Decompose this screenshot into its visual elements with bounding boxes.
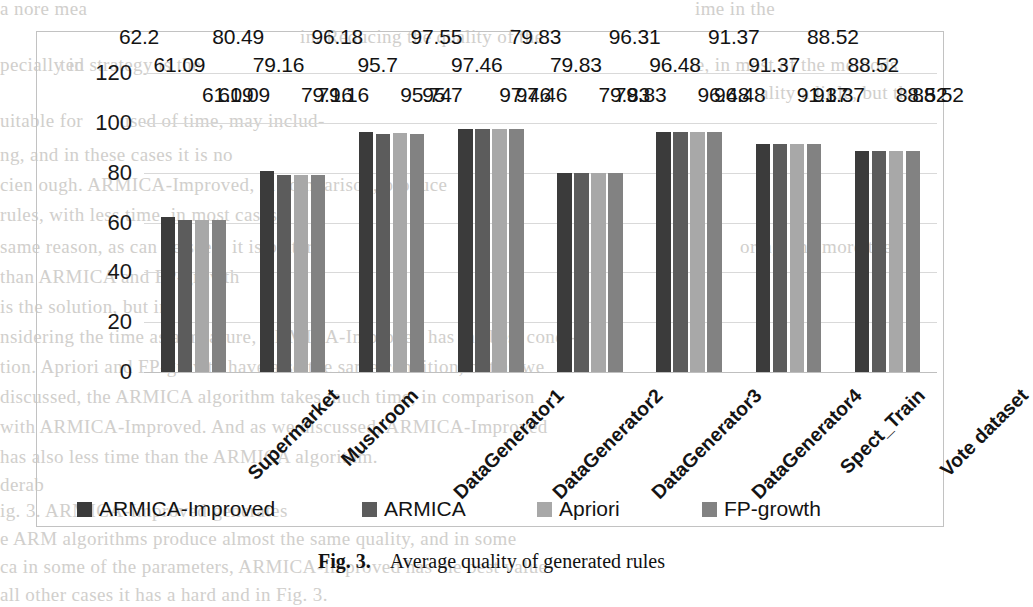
bar-group-bars [756, 73, 821, 372]
chart-plot-area: 020406080100120 62.261.0961.0961.0980.49… [144, 73, 937, 372]
bar-value-label: 96.31 [609, 25, 661, 49]
bar[interactable] [294, 175, 308, 372]
bar-value-label: 97.46 [451, 53, 503, 77]
chart-figure-frame: 020406080100120 62.261.0961.0961.0980.49… [36, 31, 944, 527]
bar[interactable] [492, 129, 506, 372]
bar-value-label: 79.16 [317, 83, 369, 107]
bar-value-label: 91.37 [708, 25, 760, 49]
bar-value-label: 95.7 [422, 83, 462, 107]
bar[interactable] [574, 173, 588, 372]
bar[interactable] [790, 144, 804, 372]
bar[interactable] [608, 173, 622, 372]
legend-item[interactable]: ARMICA-Improved [77, 497, 275, 521]
bar[interactable] [161, 217, 175, 372]
bar[interactable] [260, 171, 274, 372]
bar-group [557, 73, 622, 372]
figure-caption-text: Average quality of generated rules [390, 550, 665, 572]
bar-value-label: 88.52 [912, 83, 964, 107]
bar-value-label: 97.55 [411, 25, 463, 49]
y-tick-label: 120 [95, 60, 132, 86]
bar[interactable] [393, 133, 407, 372]
bar[interactable] [707, 132, 721, 372]
bar[interactable] [591, 173, 605, 372]
bar[interactable] [673, 132, 687, 372]
bar[interactable] [410, 134, 424, 372]
bar-group-bars [557, 73, 622, 372]
bar-group [458, 73, 523, 372]
bar-group [161, 73, 226, 372]
bar-group-bars [260, 73, 325, 372]
bar[interactable] [277, 175, 291, 372]
bar[interactable] [475, 129, 489, 372]
bar-value-label: 62.2 [119, 25, 159, 49]
legend-item[interactable]: FP-growth [702, 497, 821, 521]
bar[interactable] [178, 220, 192, 372]
x-category-label: Supermarket [243, 384, 344, 485]
y-tick-label: 20 [108, 309, 132, 335]
bar-groups [144, 73, 937, 372]
bar-value-label: 88.52 [847, 53, 899, 77]
bar-value-label: 96.48 [714, 83, 766, 107]
y-tick-label: 40 [108, 259, 132, 285]
bleed-line: a nore mea [0, 0, 87, 24]
legend-item[interactable]: ARMICA [362, 497, 466, 521]
figure-number: Fig. 3. [318, 550, 371, 572]
bar-value-label: 79.16 [253, 53, 305, 77]
bar-value-label: 97.46 [516, 83, 568, 107]
bar[interactable] [509, 129, 523, 372]
bleed-line: ime in the [695, 0, 775, 24]
bar[interactable] [807, 144, 821, 372]
bar-value-label: 96.48 [649, 53, 701, 77]
bar-group [359, 73, 424, 372]
bar[interactable] [690, 132, 704, 372]
bar-value-label: 95.7 [358, 53, 398, 77]
y-tick-label: 80 [108, 160, 132, 186]
legend-label: FP-growth [724, 497, 821, 521]
bar-value-label: 79.83 [615, 83, 667, 107]
bar[interactable] [656, 132, 670, 372]
bar[interactable] [756, 144, 770, 372]
bar-value-label: 80.49 [212, 25, 264, 49]
bar-value-label: 61.09 [218, 83, 270, 107]
bar-value-label: 91.37 [748, 53, 800, 77]
x-axis-baseline [144, 372, 937, 373]
bar-group-bars [359, 73, 424, 372]
bar-value-label: 91.37 [813, 83, 865, 107]
legend-label: ARMICA [384, 497, 466, 521]
legend-item[interactable]: Apriori [537, 497, 620, 521]
bar[interactable] [212, 220, 226, 372]
bar-value-label: 96.18 [311, 25, 363, 49]
figure-caption: Fig. 3. Average quality of generated rul… [0, 550, 983, 573]
bar-value-label: 61.09 [154, 53, 206, 77]
bar[interactable] [889, 151, 903, 372]
bar[interactable] [872, 151, 886, 372]
bar[interactable] [906, 151, 920, 372]
bar[interactable] [376, 134, 390, 372]
y-tick-label: 60 [108, 210, 132, 236]
bar[interactable] [311, 175, 325, 372]
bar[interactable] [458, 129, 472, 372]
bar-value-label: 79.83 [550, 53, 602, 77]
bar-group [656, 73, 721, 372]
bleed-line: all other cases it has a hard and in Fig… [0, 580, 328, 607]
bar-group [855, 73, 920, 372]
bar-group-bars [161, 73, 226, 372]
bar-group-bars [855, 73, 920, 372]
legend-swatch-icon [537, 502, 552, 517]
bar-value-label: 88.52 [807, 25, 859, 49]
bar[interactable] [195, 220, 209, 372]
legend-label: ARMICA-Improved [99, 497, 275, 521]
y-tick-label: 0 [120, 359, 132, 385]
legend-swatch-icon [77, 502, 92, 517]
bar[interactable] [773, 144, 787, 372]
legend-swatch-icon [702, 502, 717, 517]
bar-group [756, 73, 821, 372]
bar-value-label: 79.83 [510, 25, 562, 49]
bar[interactable] [557, 173, 571, 372]
bar-group-bars [656, 73, 721, 372]
x-category-label: Vote dataset [935, 384, 1032, 481]
bar-group-bars [458, 73, 523, 372]
x-category-label: Mushroom [336, 384, 423, 471]
bar[interactable] [855, 151, 869, 372]
bar[interactable] [359, 132, 373, 372]
